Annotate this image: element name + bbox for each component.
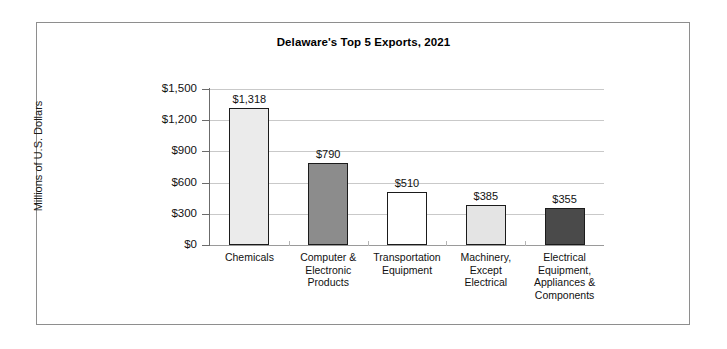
- y-axis-tick-label: $0: [137, 239, 197, 251]
- gridline: [210, 89, 604, 90]
- category-separator: [446, 241, 447, 246]
- category-separator: [289, 241, 290, 246]
- bar-value-label: $385: [441, 191, 531, 202]
- y-axis-tick: [202, 245, 209, 246]
- y-axis-tick: [202, 214, 209, 215]
- bar-value-label: $355: [520, 194, 610, 205]
- y-axis-tick: [202, 151, 209, 152]
- bar-value-label: $790: [283, 149, 373, 160]
- y-axis-tick: [202, 120, 209, 121]
- chart-title: Delaware's Top 5 Exports, 2021: [0, 36, 727, 48]
- category-separator: [368, 241, 369, 246]
- bar: [229, 108, 269, 245]
- bar-value-label: $1,318: [204, 94, 294, 105]
- bar: [387, 192, 427, 245]
- bar-value-label: $510: [362, 178, 452, 189]
- y-axis-tick-labels: $1,500$1,200$900$600$300$0: [135, 0, 197, 349]
- y-axis-tick-label: $900: [137, 145, 197, 157]
- y-axis-tick: [202, 183, 209, 184]
- category-separator: [525, 241, 526, 246]
- y-axis-tick-label: $600: [137, 177, 197, 189]
- bar: [545, 208, 585, 245]
- x-axis-line: [210, 245, 604, 246]
- x-axis-category-label: ElectricalEquipment,Appliances &Componen…: [519, 251, 611, 301]
- chart-figure: Delaware's Top 5 Exports, 2021 Millions …: [0, 0, 727, 349]
- y-axis-title: Millions of U.S. Dollars: [32, 56, 44, 256]
- plot-area: [210, 89, 604, 245]
- y-axis-tick-label: $1,500: [137, 83, 197, 95]
- y-axis-tick-label: $300: [137, 208, 197, 220]
- y-axis-tick-label: $1,200: [137, 114, 197, 126]
- y-axis-tick: [202, 89, 209, 90]
- bar: [466, 205, 506, 245]
- bar: [308, 163, 348, 245]
